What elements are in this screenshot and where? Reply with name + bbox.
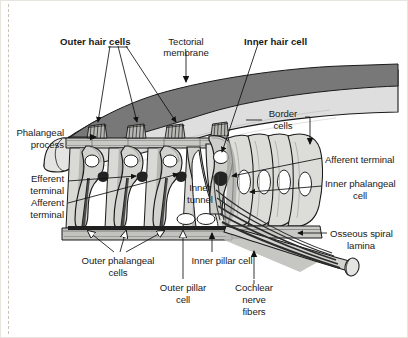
label-inner-tunnel-line2: tunnel [172, 194, 228, 205]
label-afferent-terminal-right: Afferent terminal [325, 154, 394, 165]
label-efferent-terminal-line2: terminal [0, 185, 64, 196]
label-afferent-terminal-left-line2: terminal [0, 209, 64, 220]
label-border-cells: Border [250, 108, 316, 119]
label-outer-hair-cells: Outer hair cells [60, 36, 131, 47]
label-tectorial-membrane: Tectorial [136, 36, 236, 47]
label-inner-phalangeal-cell: Inner phalangeal [325, 178, 396, 189]
label-inner-tunnel: Inner [172, 182, 228, 193]
figure-organ-of-corti: Outer hair cells Tectorial membrane Inne… [0, 0, 408, 338]
label-border-cells-line2: cells [250, 120, 316, 131]
label-outer-phalangeal-cells: Outer phalangeal [58, 255, 178, 266]
label-inner-phalangeal-cell-line2: cell [325, 190, 395, 201]
label-phalangeal-process-line2: process [0, 139, 64, 150]
label-cochlear-nerve-fibers-line3: fibers [220, 306, 288, 317]
label-inner-pillar-cell: Inner pillar cell [172, 255, 272, 266]
label-outer-pillar-cell-line2: cell [145, 294, 221, 305]
label-afferent-terminal-left: Afferent [0, 197, 64, 208]
label-tectorial-membrane-line2: membrane [136, 47, 236, 58]
label-efferent-terminal: Efferent [0, 173, 64, 184]
label-osseous-spiral-lamina-line2: lamina [330, 240, 392, 251]
label-outer-pillar-cell: Outer pillar [145, 282, 221, 293]
label-cochlear-nerve-fibers-line2: nerve [220, 294, 288, 305]
label-outer-phalangeal-cells-line2: cells [58, 267, 178, 278]
label-cochlear-nerve-fibers: Cochlear [220, 282, 288, 293]
label-phalangeal-process: Phalangeal [0, 127, 64, 138]
label-inner-hair-cell: Inner hair cell [244, 36, 307, 47]
label-osseous-spiral-lamina: Osseous spiral [330, 228, 393, 239]
